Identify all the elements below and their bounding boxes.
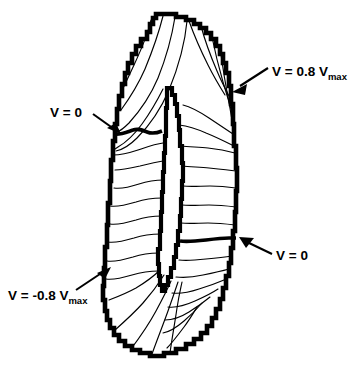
annotation-v-zero-right: V = 0 [239,237,308,263]
contour-diagram: V = 0.8 Vmax V = 0 V = 0 V = -0.8 Vmax [0,0,361,367]
annotation-label: V = -0.8 Vmax [8,288,88,306]
arrow-head-icon [232,84,247,95]
annotation-v-0-8-vmax: V = 0.8 Vmax [232,64,348,95]
leader-line [76,272,103,290]
annotation-label: V = 0 [276,248,308,263]
annotation-label: V = 0.8 Vmax [272,64,348,82]
annotation-v-zero-left: V = 0 [50,105,121,134]
figure-container: V = 0.8 Vmax V = 0 V = 0 V = -0.8 Vmax [0,0,361,367]
leader-line [240,68,268,86]
annotation-label: V = 0 [50,105,82,120]
leader-line [247,242,272,254]
arrow-head-icon [239,237,254,248]
annotation-v-minus-0-8-vmax: V = -0.8 Vmax [8,267,111,306]
